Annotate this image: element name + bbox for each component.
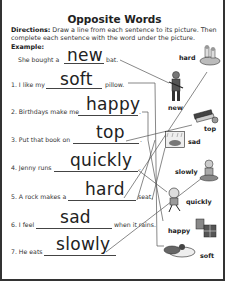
picture-label-soft: soft <box>200 252 214 260</box>
rock-seat-icon <box>199 44 221 66</box>
picture-label-happy: happy <box>168 227 190 235</box>
baseball-player-icon <box>167 70 185 104</box>
pillow-icon <box>162 242 196 258</box>
book-stack-icon <box>192 106 220 124</box>
rain-sad-icon <box>165 131 185 148</box>
picture-label-top: top <box>204 125 216 133</box>
birthday-presents-icon <box>194 217 218 239</box>
picture-label-new: new <box>168 104 183 112</box>
picture-label-hard: hard <box>179 54 196 62</box>
picture-label-slowly: slowly <box>175 168 198 176</box>
worksheet-page: Opposite Words Directions: Draw a line f… <box>0 0 225 281</box>
eating-slowly-icon <box>199 158 219 182</box>
running-girl-icon <box>165 187 183 213</box>
picture-label-quickly: quickly <box>186 198 212 206</box>
picture-label-sad: sad <box>188 138 201 146</box>
